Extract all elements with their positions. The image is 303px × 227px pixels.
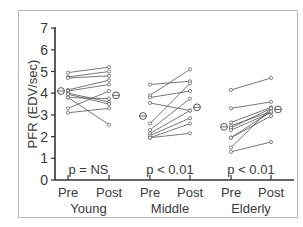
post-point bbox=[269, 100, 272, 103]
post-point bbox=[188, 122, 191, 125]
y-tick-label: 3 bbox=[40, 107, 48, 123]
pfr-chart: 01234567PFR (EDV/sec)PrePostYoungp = NSP… bbox=[0, 0, 303, 227]
pre-point bbox=[229, 146, 232, 149]
pre-point bbox=[148, 83, 151, 86]
y-tick-label: 5 bbox=[40, 64, 48, 80]
subject-line bbox=[68, 94, 109, 104]
pre-point bbox=[148, 128, 151, 131]
post-point bbox=[107, 97, 110, 100]
subject-line bbox=[68, 67, 109, 72]
post-point bbox=[188, 97, 191, 100]
pre-point bbox=[66, 71, 69, 74]
post-point bbox=[107, 79, 110, 82]
subject-line bbox=[150, 81, 190, 84]
post-point bbox=[188, 82, 191, 85]
post-point bbox=[188, 117, 191, 120]
x-tick-label-post: Post bbox=[177, 185, 203, 200]
pre-point bbox=[229, 107, 232, 110]
x-tick-label-pre: Pre bbox=[58, 185, 78, 200]
post-point bbox=[107, 102, 110, 105]
post-point bbox=[107, 89, 110, 92]
post-point bbox=[107, 70, 110, 73]
post-point bbox=[188, 89, 191, 92]
post-point bbox=[107, 123, 110, 126]
subject-line bbox=[150, 103, 190, 111]
post-point bbox=[107, 66, 110, 69]
post-point bbox=[107, 83, 110, 86]
pre-point bbox=[229, 150, 232, 153]
subject-line bbox=[231, 142, 271, 152]
post-point bbox=[107, 74, 110, 77]
p-value-label: p = NS bbox=[68, 162, 108, 177]
subject-line bbox=[68, 98, 109, 125]
pre-point bbox=[66, 111, 69, 114]
pre-point bbox=[66, 96, 69, 99]
subject-line bbox=[150, 118, 190, 135]
subject-line bbox=[68, 85, 109, 92]
post-point bbox=[269, 107, 272, 110]
pre-point bbox=[66, 76, 69, 79]
x-tick-label-pre: Pre bbox=[140, 185, 160, 200]
subject-line bbox=[68, 108, 109, 112]
subject-line bbox=[68, 98, 109, 99]
post-point bbox=[188, 132, 191, 135]
y-tick-label: 2 bbox=[40, 129, 48, 145]
pre-point bbox=[229, 128, 232, 131]
p-value-label: p < 0.01 bbox=[146, 162, 193, 177]
subject-line bbox=[231, 102, 271, 109]
group-label-elderly: Elderly bbox=[231, 201, 271, 216]
pre-point bbox=[148, 96, 151, 99]
y-tick-label: 6 bbox=[40, 42, 48, 58]
y-axis-title: PFR (EDV/sec) bbox=[25, 60, 40, 149]
y-tick-label: 0 bbox=[40, 172, 48, 188]
p-value-label: p < 0.01 bbox=[227, 162, 274, 177]
pre-point bbox=[66, 107, 69, 110]
post-point bbox=[269, 140, 272, 143]
pre-point bbox=[148, 122, 151, 125]
group-label-young: Young bbox=[70, 201, 106, 216]
group-label-middle: Middle bbox=[151, 201, 189, 216]
subject-line bbox=[68, 91, 109, 108]
x-tick-label-post: Post bbox=[258, 185, 284, 200]
pre-point bbox=[229, 136, 232, 139]
x-tick-label-post: Post bbox=[96, 185, 122, 200]
post-point bbox=[269, 110, 272, 113]
pre-point bbox=[148, 136, 151, 139]
subject-line bbox=[150, 91, 190, 98]
subject-line bbox=[150, 69, 190, 95]
post-point bbox=[188, 68, 191, 71]
subject-line bbox=[68, 80, 109, 90]
post-point bbox=[107, 107, 110, 110]
y-tick-label: 7 bbox=[40, 20, 48, 36]
pre-point bbox=[229, 121, 232, 124]
subject-line bbox=[231, 78, 271, 90]
pre-point bbox=[148, 101, 151, 104]
y-tick-label: 1 bbox=[40, 150, 48, 166]
post-point bbox=[269, 114, 272, 117]
y-tick-label: 4 bbox=[40, 85, 48, 101]
x-tick-label-pre: Pre bbox=[221, 185, 241, 200]
pre-point bbox=[229, 88, 232, 91]
post-point bbox=[269, 76, 272, 79]
pre-point bbox=[66, 93, 69, 96]
post-point bbox=[188, 109, 191, 112]
subject-line bbox=[231, 116, 271, 138]
